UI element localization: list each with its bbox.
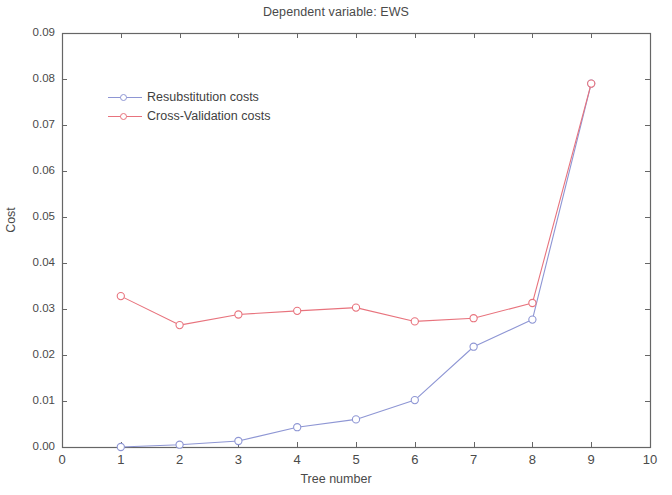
legend-item-crossvalidation: Cross-Validation costs [108, 107, 270, 126]
data-point-marker [411, 396, 418, 403]
data-point-marker [352, 416, 359, 423]
data-point-marker [294, 424, 301, 431]
data-point-marker [176, 322, 183, 329]
data-point-marker [176, 441, 183, 448]
data-point-marker [529, 299, 536, 306]
y-tick-label: 0.00 [11, 441, 55, 453]
data-point-marker [588, 80, 595, 87]
series-line-resubstitution [121, 84, 591, 447]
chart-figure: Dependent variable: EWS Cost Tree number… [0, 0, 672, 495]
data-point-marker [529, 316, 536, 323]
legend-label-crossvalidation: Cross-Validation costs [147, 110, 270, 123]
legend-swatch-resubstitution [108, 92, 142, 104]
x-tick-label: 8 [512, 452, 552, 467]
y-tick-label: 0.04 [11, 257, 55, 269]
y-tick-label: 0.02 [11, 349, 55, 361]
y-tick-label: 0.08 [11, 73, 55, 85]
data-point-marker [411, 318, 418, 325]
y-tick-label: 0.01 [11, 395, 55, 407]
open-circle-marker-icon [120, 94, 127, 101]
y-tick-label: 0.07 [11, 119, 55, 131]
data-point-marker [117, 443, 124, 450]
y-tick-label: 0.05 [11, 211, 55, 223]
legend-label-resubstitution: Resubstitution costs [147, 91, 259, 104]
x-tick-label: 10 [630, 452, 670, 467]
data-point-marker [294, 307, 301, 314]
x-tick-label: 6 [395, 452, 435, 467]
open-circle-marker-icon [120, 113, 127, 120]
x-tick-label: 4 [277, 452, 317, 467]
data-point-marker [235, 437, 242, 444]
x-tick-label: 2 [160, 452, 200, 467]
x-tick-label: 3 [218, 452, 258, 467]
legend-item-resubstitution: Resubstitution costs [108, 88, 270, 107]
x-axis-label: Tree number [0, 472, 672, 486]
chart-legend: Resubstitution costs Cross-Validation co… [108, 88, 270, 126]
x-tick-label: 5 [336, 452, 376, 467]
data-point-marker [352, 304, 359, 311]
x-tick-label: 9 [571, 452, 611, 467]
plot-area [0, 0, 672, 495]
legend-swatch-crossvalidation [108, 111, 142, 123]
x-tick-label: 1 [101, 452, 141, 467]
y-tick-label: 0.09 [11, 27, 55, 39]
y-tick-label: 0.03 [11, 303, 55, 315]
x-tick-label: 7 [454, 452, 494, 467]
x-tick-label: 0 [42, 452, 82, 467]
data-point-marker [470, 343, 477, 350]
y-tick-label: 0.06 [11, 165, 55, 177]
chart-title: Dependent variable: EWS [0, 5, 672, 19]
data-point-marker [117, 293, 124, 300]
y-axis-tick-labels: 0.000.010.020.030.040.050.060.070.080.09 [0, 0, 55, 495]
data-point-marker [235, 311, 242, 318]
data-point-marker [470, 315, 477, 322]
